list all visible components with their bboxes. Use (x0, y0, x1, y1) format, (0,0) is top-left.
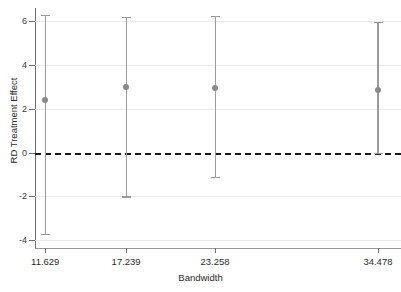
x-axis-tick (126, 248, 127, 253)
data-point-marker (375, 87, 381, 93)
x-axis-tick-label: 17.239 (112, 256, 141, 267)
plot-area (35, 8, 401, 249)
x-axis-tick (215, 248, 216, 253)
rd-sensitivity-chart: RD Treatment Effect Bandwidth 6420-2-411… (0, 0, 401, 292)
ci-lower-cap (41, 234, 50, 235)
y-axis-title: RD Treatment Effect (8, 56, 19, 186)
gridline (35, 21, 401, 22)
x-axis-tick (378, 248, 379, 253)
ci-lower-cap (211, 177, 220, 178)
x-axis-tick-label: 11.629 (31, 256, 59, 267)
confidence-interval-line (45, 15, 46, 234)
y-axis-tick-label: 6 (1, 16, 27, 26)
y-axis-tick-label: -2 (1, 191, 27, 201)
y-axis-tick-label: 2 (1, 104, 27, 114)
data-point-marker (42, 97, 48, 103)
gridline (35, 196, 401, 197)
y-axis-tick (29, 153, 35, 154)
y-axis-tick-label: 4 (1, 60, 27, 70)
ci-lower-cap (122, 196, 131, 197)
data-point-marker (123, 84, 129, 90)
y-axis-tick (29, 21, 35, 22)
x-axis-title: Bandwidth (0, 272, 401, 283)
x-axis-tick-label: 23.258 (201, 256, 230, 267)
y-axis-tick (29, 109, 35, 110)
confidence-interval-line (126, 17, 127, 197)
y-axis-tick (29, 65, 35, 66)
x-axis-tick (45, 248, 46, 253)
y-axis-tick-label: 0 (1, 148, 27, 158)
gridline (35, 109, 401, 110)
gridline (35, 65, 401, 66)
data-point-marker (212, 85, 218, 91)
ci-upper-cap (41, 15, 50, 16)
gridline (35, 240, 401, 241)
x-axis-tick-label: 34.478 (363, 256, 392, 267)
ci-upper-cap (211, 16, 220, 17)
ci-lower-cap (374, 153, 383, 154)
y-axis-tick-label: -4 (1, 235, 27, 245)
ci-upper-cap (122, 17, 131, 18)
ci-upper-cap (374, 22, 383, 23)
confidence-interval-line (215, 16, 216, 177)
y-axis-tick (29, 196, 35, 197)
zero-reference-line (35, 153, 401, 155)
y-axis-tick (29, 240, 35, 241)
